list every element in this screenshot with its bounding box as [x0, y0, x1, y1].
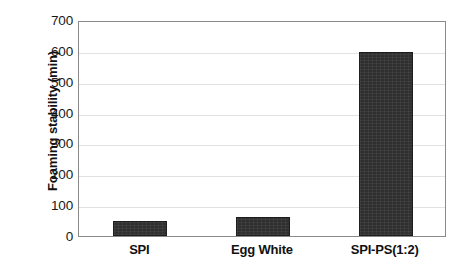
bar-spi-ps-1-2[interactable] [359, 52, 413, 236]
bar-egg-white[interactable] [236, 217, 290, 236]
y-axis-tick-label-600: 600 [34, 45, 73, 59]
y-axis-tick-label-200: 200 [34, 168, 73, 182]
y-axis-tick-label-0: 0 [34, 230, 73, 244]
y-axis-tick-label-400: 400 [34, 107, 73, 121]
x-axis-tick-label-spi: SPI [78, 241, 201, 259]
bar-chart-figure: Foaming stability (min) 700 600 500 400 … [0, 0, 468, 273]
y-axis-tick-label-700: 700 [34, 14, 73, 28]
x-axis-tick-label-spi-ps-1-2: SPI-PS(1:2) [323, 241, 446, 259]
plot-area [78, 21, 446, 237]
bars-group [79, 22, 445, 236]
y-axis-tick-label-300: 300 [34, 137, 73, 151]
y-axis-tick-label-500: 500 [34, 76, 73, 90]
x-axis-tick-label-egg-white: Egg White [201, 241, 324, 259]
y-axis-tick-label-100: 100 [34, 199, 73, 213]
x-axis-tick-label-group: SPI Egg White SPI-PS(1:2) [78, 241, 446, 261]
bar-spi[interactable] [113, 221, 167, 236]
y-axis-tick-label-group: 700 600 500 400 300 200 100 0 [34, 0, 73, 273]
